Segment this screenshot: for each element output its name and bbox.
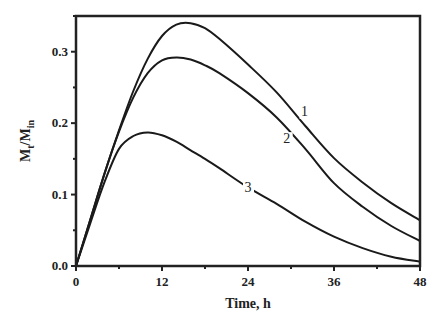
curve-2	[76, 57, 420, 266]
curves-group	[76, 23, 420, 266]
curve-label-2: 2	[283, 131, 290, 146]
x-tick-label: 48	[414, 274, 428, 289]
y-tick-label: 0.2	[52, 115, 68, 130]
curve-label-1: 1	[301, 104, 308, 119]
y-axis-ticks: 0.00.10.20.3	[52, 16, 76, 273]
plot-frame	[76, 16, 420, 266]
y-axis-title: Mt/Min	[18, 120, 36, 162]
curve-3	[76, 132, 420, 266]
curve-label-3: 3	[245, 180, 252, 195]
x-tick-label: 0	[73, 274, 80, 289]
x-tick-label: 24	[242, 274, 256, 289]
x-tick-label: 12	[156, 274, 169, 289]
y-tick-label: 0.3	[52, 44, 69, 59]
curve-1	[76, 23, 420, 266]
x-axis-ticks: 012243648	[73, 266, 427, 289]
x-axis-title: Time, h	[225, 296, 271, 311]
chart: 012243648 0.00.10.20.3 Time, h Mt/Min 12…	[0, 0, 447, 326]
x-tick-label: 36	[328, 274, 342, 289]
y-tick-label: 0.0	[52, 258, 68, 273]
y-tick-label: 0.1	[52, 187, 68, 202]
